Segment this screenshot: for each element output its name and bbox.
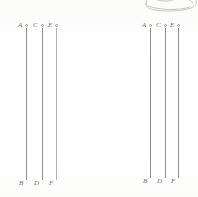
node-circle-a — [25, 24, 28, 27]
node-circle-c-2 — [164, 24, 167, 27]
top-label-a: A — [18, 22, 22, 29]
segment-cd-2 — [165, 28, 166, 178]
node-circle-e — [55, 24, 58, 27]
cropped-line-drawing — [140, 0, 198, 16]
top-label-a-2: A — [142, 22, 146, 29]
node-circle-a-2 — [149, 24, 152, 27]
top-label-c-2: C — [156, 22, 161, 29]
top-label-e-2: E — [170, 22, 174, 29]
node-circle-c — [41, 24, 44, 27]
bottom-label-d: D — [34, 180, 39, 187]
top-label-c: C — [33, 22, 38, 29]
segment-ef-2 — [178, 28, 179, 178]
paper-background — [0, 0, 198, 197]
bottom-label-b-2: B — [143, 178, 147, 185]
top-label-e: E — [48, 22, 52, 29]
bottom-label-b: B — [19, 180, 23, 187]
segment-ab-2 — [150, 28, 151, 178]
segment-ab — [26, 28, 27, 180]
segment-cd — [42, 28, 43, 180]
node-circle-e-2 — [177, 24, 180, 27]
segment-ef — [56, 28, 57, 180]
bottom-label-f: F — [49, 180, 53, 187]
figure-page: A B C D E F A B C — [0, 0, 198, 197]
bottom-label-d-2: D — [157, 178, 162, 185]
bottom-label-f-2: F — [171, 178, 175, 185]
